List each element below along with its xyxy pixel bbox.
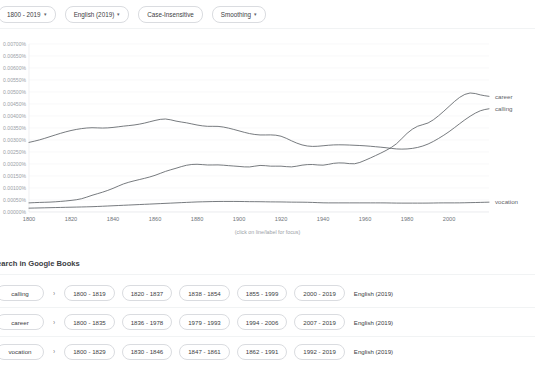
x-axis-tick-label: 1840 — [107, 216, 119, 222]
row-corpus-label: English (2019) — [354, 290, 393, 297]
term-chip-career[interactable]: career — [0, 314, 44, 330]
y-axis-tick-label: 0.00650% — [3, 53, 26, 59]
y-axis-tick-label: 0.00500% — [3, 89, 26, 95]
series-line-career[interactable] — [29, 93, 489, 203]
y-axis-tick-label: 0.00250% — [3, 149, 26, 155]
x-axis-tick-label: 1800 — [23, 216, 35, 222]
year-range-chip[interactable]: 1847 - 1861 — [179, 344, 230, 360]
date-range-chip[interactable]: 1800 - 2019 ▾ — [0, 6, 56, 23]
year-range-chip[interactable]: 1820 - 1837 — [122, 285, 173, 301]
case-insensitive-chip[interactable]: Case-Insensitive — [138, 6, 203, 23]
corpus-label: English (2019) — [74, 7, 115, 22]
y-axis-tick-label: 0.00150% — [3, 173, 26, 179]
series-line-calling[interactable] — [29, 109, 489, 149]
series-label-calling[interactable]: calling — [495, 105, 513, 112]
chart-caption: (click on line/label for focus) — [0, 229, 535, 235]
smoothing-label: Smoothing — [221, 7, 251, 22]
year-range-chip[interactable]: 1836 - 1978 — [122, 314, 173, 330]
google-books-rows: calling›1800 - 18191820 - 18371838 - 185… — [0, 279, 535, 366]
year-range-chip[interactable]: 1994 - 2006 — [237, 314, 288, 330]
y-axis-tick-label: 0.00400% — [3, 113, 26, 119]
x-axis-tick-label: 1900 — [233, 216, 245, 222]
series-label-vocation[interactable]: vocation — [495, 198, 519, 205]
x-axis-tick-label: 1920 — [275, 216, 287, 222]
smoothing-chip[interactable]: Smoothing ▾ — [212, 6, 266, 23]
year-range-chip[interactable]: 1979 - 1993 — [179, 314, 230, 330]
y-axis-tick-label: 0.00350% — [3, 125, 26, 131]
y-axis-tick-label: 0.00300% — [3, 137, 26, 143]
toolbar-divider — [0, 28, 535, 29]
chevron-down-icon: ▾ — [117, 6, 120, 21]
google-books-row: vocation›1800 - 18291830 - 18461847 - 18… — [0, 337, 535, 366]
ngram-chart[interactable]: 0.00700%0.00650%0.00600%0.00550%0.00500%… — [0, 34, 535, 234]
y-axis-tick-label: 0.00050% — [3, 197, 26, 203]
chevron-right-icon: › — [52, 348, 57, 355]
google-books-divider — [0, 274, 535, 275]
x-axis-tick-label: 1860 — [149, 216, 161, 222]
year-range-chip[interactable]: 1992 - 2019 — [294, 344, 345, 360]
ngram-viewer-page: 1800 - 2019 ▾ English (2019) ▾ Case-Inse… — [0, 0, 535, 387]
year-range-chip[interactable]: 1800 - 1835 — [64, 314, 115, 330]
year-range-chip[interactable]: 1862 - 1991 — [237, 344, 288, 360]
row-corpus-label: English (2019) — [354, 348, 393, 355]
year-range-chip[interactable]: 1830 - 1846 — [122, 344, 173, 360]
x-axis-tick-label: 1880 — [191, 216, 203, 222]
google-books-heading: Search in Google Books — [0, 259, 80, 268]
term-chip-vocation[interactable]: vocation — [0, 344, 44, 360]
y-axis-tick-label: 0.00700% — [3, 41, 26, 47]
google-books-row: career›1800 - 18351836 - 19781979 - 1993… — [0, 308, 535, 337]
x-axis-tick-label: 1940 — [317, 216, 329, 222]
corpus-chip[interactable]: English (2019) ▾ — [65, 6, 130, 23]
x-axis-tick-label: 1980 — [401, 216, 413, 222]
year-range-chip[interactable]: 1855 - 1999 — [237, 285, 288, 301]
y-axis-tick-label: 0.00100% — [3, 185, 26, 191]
year-range-chip[interactable]: 1800 - 1819 — [64, 285, 115, 301]
year-range-chip[interactable]: 2007 - 2019 — [294, 314, 345, 330]
y-axis-tick-label: 0.00000% — [3, 209, 26, 215]
series-label-career[interactable]: career — [495, 93, 513, 100]
chevron-right-icon: › — [52, 290, 57, 297]
y-axis-tick-label: 0.00600% — [3, 65, 26, 71]
year-range-chip[interactable]: 2000 - 2019 — [294, 285, 345, 301]
case-insensitive-label: Case-Insensitive — [147, 7, 194, 22]
year-range-chip[interactable]: 1800 - 1829 — [64, 344, 115, 360]
x-axis-tick-label: 1820 — [65, 216, 77, 222]
y-axis-tick-label: 0.00450% — [3, 101, 26, 107]
chevron-down-icon: ▾ — [254, 6, 257, 21]
chevron-down-icon: ▾ — [44, 6, 47, 21]
ngram-chart-svg[interactable]: 0.00700%0.00650%0.00600%0.00550%0.00500%… — [0, 34, 535, 234]
x-axis-tick-label: 2000 — [443, 216, 455, 222]
term-chip-calling[interactable]: calling — [0, 285, 44, 301]
date-range-label: 1800 - 2019 — [7, 7, 41, 22]
y-axis-tick-label: 0.00550% — [3, 77, 26, 83]
chart-options-bar: 1800 - 2019 ▾ English (2019) ▾ Case-Inse… — [0, 4, 535, 24]
year-range-chip[interactable]: 1838 - 1854 — [179, 285, 230, 301]
chevron-right-icon: › — [52, 319, 57, 326]
series-line-vocation[interactable] — [29, 201, 489, 208]
row-corpus-label: English (2019) — [354, 319, 393, 326]
x-axis-tick-label: 1960 — [359, 216, 371, 222]
google-books-row: calling›1800 - 18191820 - 18371838 - 185… — [0, 279, 535, 308]
y-axis-tick-label: 0.00200% — [3, 161, 26, 167]
